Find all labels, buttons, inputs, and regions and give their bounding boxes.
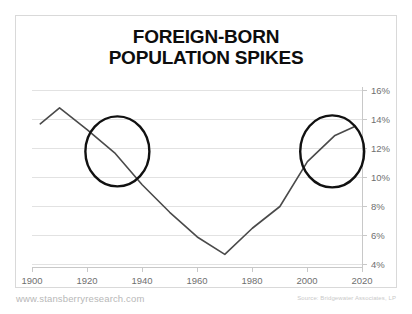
- right-spike-circle: [300, 115, 364, 187]
- gridlines: [32, 91, 363, 265]
- x-label-1920: 1920: [76, 275, 97, 286]
- y-tick-marks: [363, 91, 367, 265]
- x-label-1940: 1940: [131, 275, 152, 286]
- x-label-1900: 1900: [21, 275, 42, 286]
- x-axis-tick-labels: 1900 1920 1940 1960 1980 2000 2020: [21, 275, 372, 286]
- y-label-16: 16%: [371, 85, 391, 96]
- y-label-4: 4%: [371, 259, 385, 270]
- y-label-10: 10%: [371, 172, 391, 183]
- y-axis-tick-labels: 16% 14% 12% 10% 8% 6% 4%: [371, 85, 391, 270]
- x-label-2020: 2020: [351, 275, 372, 286]
- x-label-1980: 1980: [241, 275, 262, 286]
- x-label-2000: 2000: [296, 275, 317, 286]
- y-label-6: 6%: [371, 230, 385, 241]
- y-label-12: 12%: [371, 143, 391, 154]
- source-credit: Source: Bridgewater Associates, LP: [297, 295, 396, 301]
- y-label-8: 8%: [371, 201, 385, 212]
- y-label-14: 14%: [371, 114, 391, 125]
- x-label-1960: 1960: [186, 275, 207, 286]
- chart-page: FOREIGN-BORN POPULATION SPIKES: [0, 0, 412, 314]
- left-spike-circle: [85, 116, 149, 186]
- website-credit: www.stansberryresearch.com: [16, 293, 145, 304]
- chart-plot-area: 16% 14% 12% 10% 8% 6% 4% 1900 1920 1940 …: [15, 15, 397, 288]
